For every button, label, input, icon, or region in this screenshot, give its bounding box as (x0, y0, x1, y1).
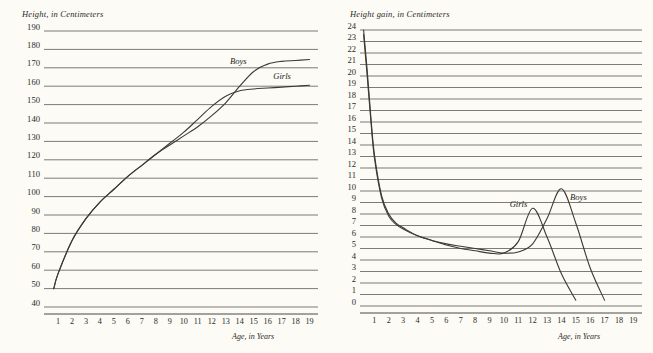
x-tick-label-7: 7 (459, 316, 463, 325)
x-tick-label-19: 19 (629, 316, 637, 325)
x-tick-label-17: 17 (278, 317, 286, 326)
y-tick-label-9: 9 (352, 193, 356, 203)
y-tick-label-80: 80 (31, 224, 40, 234)
y-tick-label-18: 18 (347, 90, 356, 100)
y-tick-label-160: 160 (27, 77, 40, 87)
x-tick-label-1: 1 (372, 316, 376, 325)
y-tick-label-7: 7 (352, 216, 357, 226)
x-tick-label-11: 11 (194, 317, 202, 326)
x-tick-label-19: 19 (306, 317, 314, 326)
x-tick-label-10: 10 (500, 316, 508, 325)
y-tick-label-16: 16 (347, 113, 356, 123)
x-tick-label-7: 7 (140, 317, 144, 326)
x-tick-label-12: 12 (529, 316, 537, 325)
x-tick-label-3: 3 (401, 316, 405, 325)
curve-girls (54, 85, 310, 288)
x-tick-label-10: 10 (180, 317, 188, 326)
x-tick-label-11: 11 (514, 316, 522, 325)
y-tick-label-13: 13 (347, 147, 356, 157)
y-tick-label-20: 20 (347, 67, 356, 77)
x-tick-label-6: 6 (444, 316, 448, 325)
y-tick-label-140: 140 (27, 114, 40, 124)
y-tick-label-4: 4 (352, 251, 357, 261)
y-tick-label-40: 40 (31, 298, 40, 308)
y-tick-label-12: 12 (347, 159, 356, 169)
height-chart-panel: Height, in Centimeters Age, in Years 190… (0, 0, 330, 353)
y-tick-label-180: 180 (27, 40, 40, 50)
x-tick-label-14: 14 (236, 317, 244, 326)
x-tick-label-2: 2 (387, 316, 391, 325)
x-tick-label-13: 13 (222, 317, 230, 326)
x-tick-label-18: 18 (292, 317, 300, 326)
y-tick-label-70: 70 (31, 242, 40, 252)
y-tick-label-10: 10 (347, 182, 356, 192)
y-tick-label-24: 24 (347, 21, 356, 31)
height-gain-chart-panel: Height gain, in Centimeters Age, in Year… (330, 0, 653, 353)
series-label-boys: Boys (570, 192, 587, 202)
y-tick-label-130: 130 (27, 132, 40, 142)
y-tick-label-15: 15 (347, 124, 356, 134)
y-tick-label-22: 22 (347, 44, 356, 54)
y-tick-label-14: 14 (347, 136, 356, 146)
y-tick-label-120: 120 (27, 150, 40, 160)
x-tick-label-8: 8 (473, 316, 477, 325)
y-tick-label-90: 90 (31, 206, 40, 216)
x-tick-label-5: 5 (430, 316, 434, 325)
x-tick-label-17: 17 (600, 316, 608, 325)
x-tick-label-15: 15 (572, 316, 580, 325)
y-tick-label-19: 19 (347, 78, 356, 88)
x-tick-label-2: 2 (70, 317, 74, 326)
x-tick-label-16: 16 (264, 317, 272, 326)
y-tick-label-11: 11 (348, 170, 356, 180)
y-tick-label-21: 21 (347, 55, 356, 65)
curve-boys (54, 60, 310, 289)
curve-boys (364, 35, 605, 301)
x-tick-label-4: 4 (98, 317, 102, 326)
y-tick-label-8: 8 (352, 205, 356, 215)
series-label-girls: Girls (510, 199, 528, 209)
y-tick-label-6: 6 (352, 228, 357, 238)
x-tick-label-9: 9 (487, 316, 491, 325)
x-tick-label-12: 12 (208, 317, 216, 326)
height-gain-chart-svg: 2423222120191817161514131211109876543210… (330, 0, 653, 353)
height-chart-svg: 1901801701601501401301201101009080706050… (0, 0, 330, 353)
y-tick-label-190: 190 (27, 22, 40, 32)
x-tick-label-5: 5 (112, 317, 116, 326)
series-label-boys: Boys (230, 56, 247, 66)
y-tick-label-5: 5 (352, 239, 356, 249)
x-tick-label-3: 3 (84, 317, 88, 326)
x-tick-label-13: 13 (543, 316, 551, 325)
x-tick-label-18: 18 (615, 316, 623, 325)
y-tick-label-60: 60 (31, 261, 40, 271)
figure-container: Height, in Centimeters Age, in Years 190… (0, 0, 653, 353)
x-tick-label-1: 1 (56, 317, 60, 326)
series-label-girls: Girls (273, 71, 291, 81)
x-tick-label-9: 9 (168, 317, 172, 326)
x-tick-label-6: 6 (126, 317, 130, 326)
y-tick-label-23: 23 (347, 32, 356, 42)
x-tick-label-4: 4 (416, 316, 420, 325)
x-tick-label-16: 16 (586, 316, 594, 325)
y-tick-label-170: 170 (27, 58, 40, 68)
y-tick-label-1: 1 (352, 285, 356, 295)
x-tick-label-8: 8 (154, 317, 158, 326)
y-tick-label-3: 3 (352, 262, 356, 272)
y-tick-label-110: 110 (27, 169, 40, 179)
y-tick-label-100: 100 (27, 187, 40, 197)
x-tick-label-15: 15 (250, 317, 258, 326)
y-tick-label-150: 150 (27, 95, 40, 105)
y-tick-label-0: 0 (352, 297, 356, 307)
y-tick-label-2: 2 (352, 274, 356, 284)
y-tick-label-17: 17 (347, 101, 356, 111)
x-tick-label-14: 14 (557, 316, 565, 325)
y-tick-label-50: 50 (31, 279, 40, 289)
